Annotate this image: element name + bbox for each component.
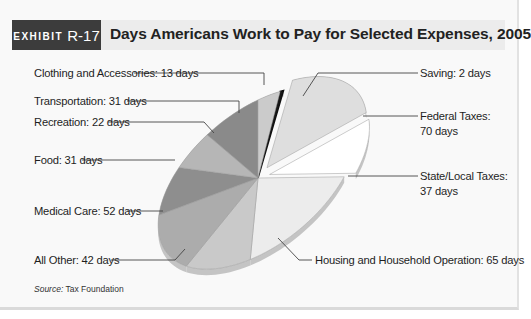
label-federal-taxes-line1: Federal Taxes: xyxy=(420,109,490,124)
label-transportation: Transportation: 31 days xyxy=(34,94,147,109)
label-state-local-taxes-line1: State/Local Taxes: xyxy=(420,169,508,184)
label-state-local-taxes-line2: 37 days xyxy=(420,184,458,199)
label-saving: Saving: 2 days xyxy=(420,66,491,81)
source-note: Source: Tax Foundation xyxy=(34,284,124,294)
label-all-other: All Other: 42 days xyxy=(34,253,119,268)
source-prefix: Source: xyxy=(34,284,63,294)
label-medical-care: Medical Care: 52 days xyxy=(34,204,141,219)
pie-slice-housing-and-household-operation xyxy=(250,177,344,260)
label-food: Food: 31 days xyxy=(34,153,102,168)
source-text: Tax Foundation xyxy=(66,284,124,294)
label-federal-taxes-line2: 70 days xyxy=(420,124,458,139)
label-recreation: Recreation: 22 days xyxy=(34,115,130,130)
label-housing: Housing and Household Operation: 65 days xyxy=(315,253,524,268)
label-clothing: Clothing and Accessories: 13 days xyxy=(34,66,198,81)
